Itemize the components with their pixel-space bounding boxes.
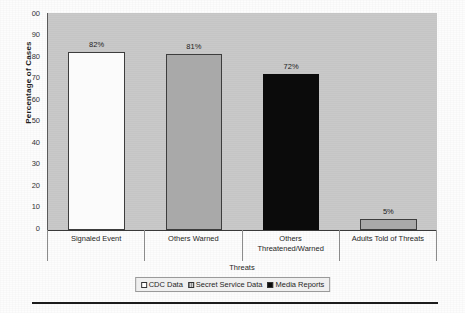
x-axis-label-adults-told-of-threats: Adults Told of Threats [340,230,436,261]
chart-legend: CDC Data Secret Service Data Media Repor… [135,277,331,292]
bar-value-others-threatened-warned: 72% [284,62,299,71]
plot-area: 82% 81% 72% 5% [47,13,437,230]
bar-chart: Percentage of Cases 00 90 80 70 60 50 40… [0,0,465,313]
y-axis-tick-100: 00 [18,10,40,18]
legend-item-cdc-data[interactable]: CDC Data [141,280,183,289]
y-axis-tick-90: 90 [18,31,40,39]
x-axis-category-band: Signaled Event Others Warned Others Thre… [47,230,437,261]
document-page: Percentage of Cases 00 90 80 70 60 50 40… [0,0,465,313]
legend-swatch-icon-cdc-data [141,282,147,288]
x-axis-label-signaled-event: Signaled Event [48,230,145,261]
y-axis-tick-40: 40 [18,139,40,147]
legend-label-secret-service-data: Secret Service Data [196,280,263,289]
y-axis-tick-0: 0 [18,225,40,233]
x-axis-label-others-warned: Others Warned [145,230,242,261]
x-axis-title: Threats [47,263,437,272]
x-axis-label-line2: Threatened/Warned [243,244,339,254]
y-axis-tick-30: 30 [18,160,40,168]
legend-item-media-reports[interactable]: Media Reports [268,280,325,289]
bar-signaled-event[interactable]: 82% [68,52,124,230]
y-axis-tick-50: 50 [18,117,40,125]
legend-swatch-icon-media-reports [268,282,274,288]
bar-others-warned[interactable]: 81% [166,54,222,230]
bar-value-adults-told-of-threats: 5% [383,207,394,216]
legend-item-secret-service-data[interactable]: Secret Service Data [188,280,263,289]
y-axis-tick-60: 60 [18,96,40,104]
legend-swatch-icon-secret-service-data [188,282,194,288]
y-axis-tick-80: 80 [18,53,40,61]
x-axis-label-line1: Others [243,234,339,244]
bar-group: 82% 81% 72% 5% [48,13,437,230]
legend-label-media-reports: Media Reports [276,280,325,289]
y-axis-tick-70: 70 [18,74,40,82]
bar-value-signaled-event: 82% [89,40,104,49]
page-horizontal-rule [32,302,438,304]
x-axis-label-others-threatened-warned: Others Threatened/Warned [243,230,340,261]
y-axis-tick-20: 20 [18,182,40,190]
bar-slot-others-threatened-warned: 72% [243,13,340,230]
bar-slot-adults-told-of-threats: 5% [340,13,437,230]
bar-adults-told-of-threats[interactable]: 5% [360,219,416,230]
y-axis-tick-10: 10 [18,203,40,211]
legend-label-cdc-data: CDC Data [149,280,183,289]
bar-others-threatened-warned[interactable]: 72% [263,74,319,230]
bar-slot-signaled-event: 82% [48,13,145,230]
bar-slot-others-warned: 81% [145,13,242,230]
bar-value-others-warned: 81% [186,42,201,51]
